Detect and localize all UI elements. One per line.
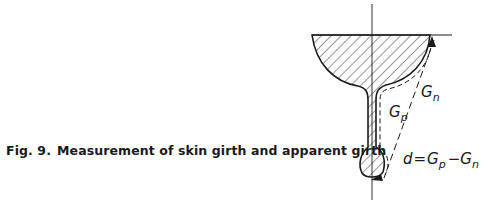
girth-diagram: Gp Gn d=Gp−Gn [0,0,481,208]
gn-label: Gn [421,83,440,104]
gp-label: Gp [389,103,408,124]
girth-difference-formula: d=Gp−Gn [403,150,479,171]
